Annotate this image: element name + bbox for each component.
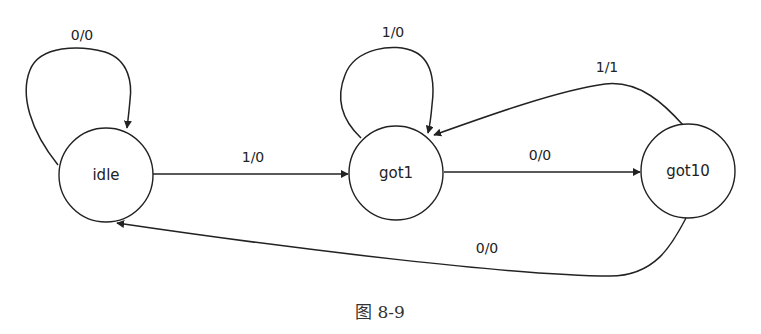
state-label-idle: idle [92,166,119,184]
edge-label-got1-got1: 1/0 [382,24,405,40]
edge-label-got1-got10: 0/0 [529,147,552,163]
edge-got1-got1 [340,47,433,138]
edge-label-idle-got1: 1/0 [242,149,265,165]
edge-label-idle-idle: 0/0 [71,27,94,43]
edge-label-got10-idle: 0/0 [476,240,499,256]
state-label-got1: got1 [379,164,413,182]
state-got1: got1 [349,126,443,220]
state-diagram: 0/0 1/0 1/0 0/0 1/1 0/0 idle got1 got10 … [0,0,761,334]
state-got10: got10 [641,124,735,218]
figure-caption: 图 8-9 [355,302,405,322]
state-label-got10: got10 [666,162,710,180]
edge-got10-got1 [434,84,683,135]
edge-label-got10-got1: 1/1 [596,59,619,75]
edge-got10-idle [117,218,686,276]
state-idle: idle [59,128,153,222]
